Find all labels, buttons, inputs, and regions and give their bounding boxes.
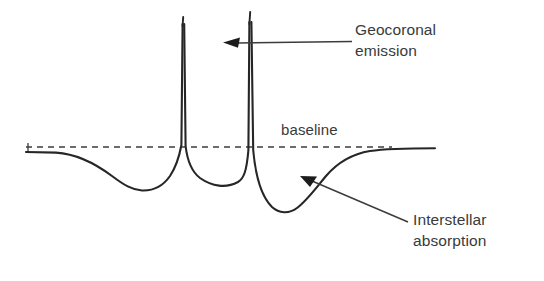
interstellar-absorption-label: Interstellar absorption <box>413 209 487 251</box>
emission-spike-2 <box>249 12 250 24</box>
geocoronal-leader-line <box>237 42 352 44</box>
interstellar-absorption-label-line2: absorption <box>413 230 487 251</box>
interstellar-leader-line <box>312 181 408 222</box>
geocoronal-emission-label-line2: emission <box>355 40 436 61</box>
geocoronal-arrowhead-icon <box>223 37 240 47</box>
spectral-line-figure: Geocoronal emission Interstellar absorpt… <box>0 0 544 281</box>
spectrum-curve-left <box>26 24 183 191</box>
geocoronal-emission-label: Geocoronal emission <box>355 19 436 61</box>
baseline-label: baseline <box>281 119 338 140</box>
emission-spike-1 <box>183 17 184 26</box>
geocoronal-emission-label-line1: Geocoronal <box>355 19 436 40</box>
interstellar-absorption-label-line1: Interstellar <box>413 209 487 230</box>
spectrum-curve-mid <box>184 22 249 186</box>
